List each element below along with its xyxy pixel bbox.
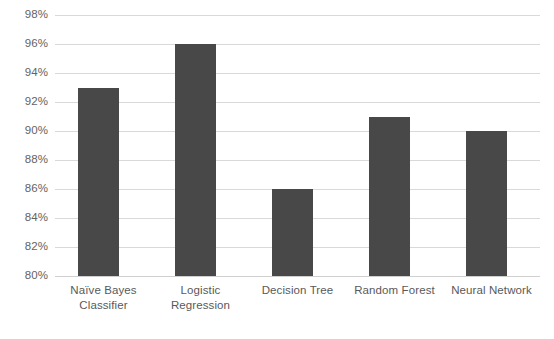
x-axis-tick-label-line: Random Forest [354,284,435,296]
y-axis: 98%96%94%92%90%88%86%84%82%80% [0,0,48,339]
gridline [55,276,540,277]
bar [466,131,507,276]
x-axis-tick-label-line: Naïve Bayes [70,284,136,296]
bar [78,88,119,277]
bar [272,189,313,276]
y-axis-tick-label: 88% [0,154,48,166]
x-axis-tick-label: Neural Network [435,283,548,298]
bar [369,117,410,277]
plot-area [55,15,540,276]
y-axis-tick-label: 98% [0,9,48,21]
y-axis-tick-label: 90% [0,125,48,137]
y-axis-tick-label: 96% [0,38,48,50]
y-axis-tick-label: 80% [0,270,48,282]
y-axis-tick-label: 86% [0,183,48,195]
x-axis: Naïve BayesClassifierLogisticRegressionD… [55,283,540,331]
x-axis-tick-label-line: Neural Network [451,284,532,296]
x-axis-tick-label-line: Logistic [181,284,221,296]
bars-layer [55,15,540,276]
x-axis-tick-label-line: Decision Tree [262,284,334,296]
y-axis-tick-label: 84% [0,212,48,224]
x-axis-tick-label-line: Regression [144,298,257,313]
bar [175,44,216,276]
y-axis-tick-label: 82% [0,241,48,253]
bar-chart: 98%96%94%92%90%88%86%84%82%80% Naïve Bay… [0,0,554,339]
y-axis-tick-label: 94% [0,67,48,79]
y-axis-tick-label: 92% [0,96,48,108]
